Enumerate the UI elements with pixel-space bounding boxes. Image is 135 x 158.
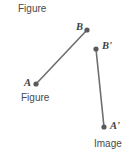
segment-a-prime-b-prime [96,49,104,127]
geometry-diagram [0,0,135,158]
point-label-b: B [76,21,83,32]
caption-figure-top: Figure [18,3,46,14]
point-b-marker [84,27,89,32]
segment-ab [36,30,87,84]
geometry-figure-canvas: Figure A B Figure B' A' Image [0,0,135,158]
point-b-prime-marker [93,46,98,51]
point-label-a-prime: A' [110,120,120,131]
caption-image: Image [94,138,122,149]
point-label-a: A [24,77,31,88]
point-a-marker [33,81,38,86]
point-a-prime-marker [101,124,106,129]
caption-figure-lower: Figure [21,92,49,103]
point-label-b-prime: B' [102,40,112,51]
